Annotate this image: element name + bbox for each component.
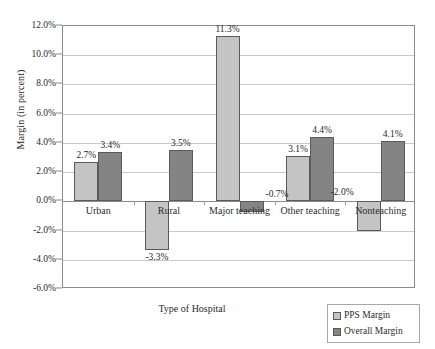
data-label: 4.1% [383, 129, 403, 139]
category-label: Urban [86, 205, 111, 216]
y-axis-tick-label: 4.0% [0, 137, 56, 147]
chart-legend: PPS MarginOverall Margin [327, 304, 420, 343]
category-label: Rural [158, 205, 180, 216]
x-axis-tick-mark [345, 201, 346, 205]
bar-pps-margin [74, 162, 98, 201]
y-axis-tick-label: 12.0% [0, 20, 56, 30]
y-axis-tick-label: -6.0% [0, 283, 56, 293]
x-axis-tick-mark [204, 201, 205, 205]
data-label: 3.1% [288, 144, 308, 154]
y-axis-tick-label: -4.0% [0, 254, 56, 264]
data-label: 4.4% [312, 125, 332, 135]
bar-pps-margin [286, 156, 310, 201]
data-label: 11.3% [215, 24, 239, 34]
gridline [63, 231, 414, 232]
bar-overall-margin [169, 150, 193, 201]
y-axis-tick-label: 8.0% [0, 78, 56, 88]
gridline [63, 260, 414, 261]
data-label: 3.5% [171, 138, 191, 148]
bar-pps-margin [216, 36, 240, 201]
legend-label: Overall Margin [344, 327, 403, 337]
y-axis-tick-label: 6.0% [0, 108, 56, 118]
x-axis-tick-mark [275, 201, 276, 205]
legend-label: PPS Margin [344, 311, 390, 321]
bar-chart: Margin (in percent) Type of Hospital 12.… [0, 0, 435, 349]
y-axis-tick-label: -2.0% [0, 225, 56, 235]
category-label: Major teaching [209, 205, 270, 216]
x-axis-tick-mark [134, 201, 135, 205]
data-label: 3.4% [100, 140, 120, 150]
category-label: Other teaching [281, 205, 340, 216]
data-label: 2.7% [76, 150, 96, 160]
data-label: -3.3% [145, 252, 168, 262]
legend-item: PPS Margin [333, 308, 419, 324]
data-label: -0.7% [266, 189, 289, 199]
legend-swatch-icon [333, 328, 341, 336]
y-axis-tick-label: 10.0% [0, 49, 56, 59]
legend-swatch-icon [333, 312, 341, 320]
y-axis-tick-label: 2.0% [0, 166, 56, 176]
bar-overall-margin [98, 152, 122, 202]
plot-area: UrbanRuralMajor teachingOther teachingNo… [62, 25, 415, 288]
legend-item: Overall Margin [333, 324, 419, 340]
category-label: Nonteaching [355, 205, 406, 216]
y-axis-tick-label: 0.0% [0, 195, 56, 205]
x-axis-title: Type of Hospital [62, 303, 322, 314]
data-label: -2.0% [331, 187, 354, 197]
bar-overall-margin [381, 141, 405, 201]
